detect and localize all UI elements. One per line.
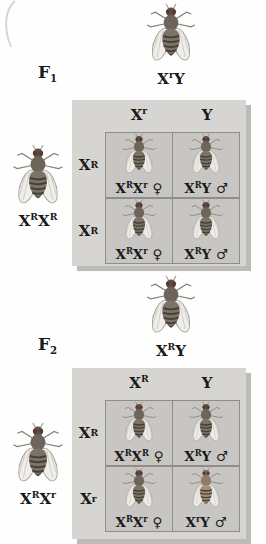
f1-female-parent-genotype: XRXR: [4, 212, 72, 230]
fly-offspring-icon: [186, 133, 226, 179]
punnett-cell: XRY ♂: [173, 133, 239, 197]
offspring-genotype: XrY ♂: [173, 514, 239, 530]
f2-male-parent-genotype: XRY: [116, 342, 226, 360]
f2-male-parent: XRY: [116, 275, 226, 360]
fly-offspring-icon: [119, 133, 159, 179]
f2-row-header-1: XR: [72, 400, 105, 466]
f1-row-header-1: XR: [72, 132, 105, 198]
f2-generation-label: F2: [38, 334, 57, 354]
offspring-genotype: XRY ♂: [173, 448, 239, 464]
f2-cross-section: F2 XRY XRXr XR Y XR Xr XRXR ♀ XRY ♂: [0, 272, 266, 544]
punnett-cell: XrY ♂: [173, 467, 239, 531]
fly-f2-male-parent-icon: [143, 275, 199, 341]
fly-f1-male-parent-icon: [143, 3, 199, 69]
punnett-diagram-figure: F1 XrY XRXR Xr Y XR XR XRXr ♀ XRY ♂: [0, 0, 266, 544]
f1-punnett-grid: XRXr ♀ XRY ♂ XRXr ♀ XRY ♂: [105, 132, 240, 264]
f2-row-header-2: Xr: [72, 466, 105, 532]
f1-generation-label: F1: [38, 62, 57, 82]
offspring-genotype: XRXr ♀: [106, 180, 172, 196]
f1-male-parent-genotype: XrY: [116, 70, 226, 88]
f2-punnett-square: XR Y XR Xr XRXR ♀ XRY ♂ XRXr ♀: [72, 368, 246, 539]
fly-f1-female-parent-icon: [9, 144, 67, 212]
offspring-genotype: XRXr ♀: [106, 514, 172, 530]
f1-column-header-2: Y: [173, 106, 241, 124]
f2-column-header-2: Y: [173, 374, 241, 392]
fly-offspring-icon: [119, 401, 159, 447]
offspring-genotype: XRY ♂: [173, 246, 239, 262]
punnett-cell: XRXr ♀: [106, 467, 172, 531]
f2-female-parent-genotype: XRXr: [4, 490, 72, 508]
f2-punnett-grid: XRXR ♀ XRY ♂ XRXr ♀ XrY ♂: [105, 400, 240, 532]
offspring-genotype: XRXr ♀: [106, 246, 172, 262]
punnett-cell: XRY ♂: [173, 199, 239, 263]
fly-offspring-icon: [119, 199, 159, 245]
f1-female-parent: XRXR: [4, 144, 72, 230]
f1-male-parent: XrY: [116, 3, 226, 88]
punnett-cell: XRXR ♀: [106, 401, 172, 465]
fly-offspring-icon: [119, 467, 159, 513]
fly-offspring-icon: [186, 467, 226, 513]
offspring-genotype: XRY ♂: [173, 180, 239, 196]
punnett-cell: XRY ♂: [173, 401, 239, 465]
offspring-genotype: XRXR ♀: [106, 448, 172, 464]
fly-f2-female-parent-icon: [9, 422, 67, 490]
punnett-cell: XRXr ♀: [106, 199, 172, 263]
f1-cross-section: F1 XrY XRXR Xr Y XR XR XRXr ♀ XRY ♂: [0, 0, 266, 272]
f2-column-header-1: XR: [105, 374, 173, 392]
f1-punnett-square: Xr Y XR XR XRXr ♀ XRY ♂ XRXr ♀: [72, 100, 246, 266]
f1-row-header-2: XR: [72, 198, 105, 264]
fly-offspring-icon: [186, 199, 226, 245]
punnett-cell: XRXr ♀: [106, 133, 172, 197]
f1-column-header-1: Xr: [105, 106, 173, 124]
fly-offspring-icon: [186, 401, 226, 447]
f2-female-parent: XRXr: [4, 422, 72, 508]
